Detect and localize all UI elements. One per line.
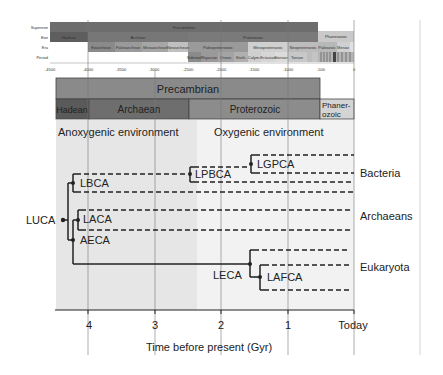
x-axis-ticks	[88, 310, 354, 314]
svg-text:-500: -500	[317, 67, 326, 72]
era-label: Neoarchean	[167, 45, 189, 50]
era-label: Paleoarchean	[116, 45, 141, 50]
lgpca-node-icon	[249, 162, 253, 166]
period-label: Stenian	[274, 55, 288, 60]
archaean-label: Archaean	[118, 104, 161, 115]
aeca-node-icon	[71, 238, 75, 242]
svg-text:-1500: -1500	[249, 67, 260, 72]
lgpca-label: LGPCA	[257, 158, 295, 170]
eon-hadean-label: Hadean	[62, 35, 76, 40]
svg-text:-2000: -2000	[216, 67, 227, 72]
period-label: Orosir.	[220, 55, 232, 60]
proterozoic-label: Proterozoic	[230, 104, 281, 115]
anoxygenic-label: Anoxygenic environment	[58, 126, 178, 138]
svg-text:0: 0	[353, 67, 356, 72]
era-label: Neoproterozoic	[289, 45, 316, 50]
svg-text:-3500: -3500	[116, 67, 127, 72]
era-label: Mesoarchean	[143, 45, 167, 50]
lafca-node-icon	[258, 275, 262, 279]
oxygenic-label: Oxygenic environment	[214, 126, 323, 138]
svg-text:-3000: -3000	[149, 67, 160, 72]
svg-text:4: 4	[86, 319, 92, 331]
row-label-period: Period	[36, 55, 48, 60]
supereon-precambrian-label: Precambrian	[173, 25, 196, 30]
x-axis-tick-labels: 4 3 2 1 Today	[86, 319, 368, 331]
era-label: Mesoz	[337, 45, 349, 50]
svg-text:Today: Today	[338, 319, 368, 331]
archaeans-label: Archaeans	[360, 210, 413, 222]
mini-timeline: Supereon Eon Era Period Precambrian Hade…	[31, 22, 356, 72]
era-label: Paleoproterozoic	[203, 45, 233, 50]
svg-text:-4500: -4500	[45, 67, 56, 72]
period-label: Rhyacian	[201, 55, 218, 60]
laca-node-icon	[76, 218, 80, 222]
precambrian-label: Precambrian	[157, 83, 219, 95]
period-label: Stath.	[236, 55, 246, 60]
lpbca-label: LPBCA	[195, 168, 232, 180]
era-label: Paleozoic	[318, 45, 335, 50]
hadean-label: Hadean	[56, 105, 88, 115]
era-label: Mesoproterozoic	[253, 45, 283, 50]
period-phanerozoic-stripes	[318, 52, 354, 62]
leca-node-icon	[248, 262, 252, 266]
eukaryota-label: Eukaryota	[360, 261, 410, 273]
svg-text:-2500: -2500	[183, 67, 194, 72]
lbca-label: LBCA	[80, 177, 109, 189]
lpbca-node-icon	[188, 172, 192, 176]
period-label: Siderian	[187, 55, 202, 60]
period-ediacaran	[312, 52, 318, 62]
era-cenozoic	[350, 42, 354, 52]
svg-text:-1000: -1000	[283, 67, 294, 72]
aeca-label: AECA	[80, 234, 111, 246]
lafca-label: LAFCA	[267, 271, 303, 283]
luca-label: LUCA	[26, 214, 56, 226]
svg-text:-4000: -4000	[83, 67, 94, 72]
lbca-node-icon	[71, 181, 75, 185]
phanerozoic-label-1: Phaner-	[322, 101, 351, 110]
eon-bars: Precambrian Hadean Archaean Proterozoic …	[56, 78, 354, 119]
era-label: Eoarchean	[91, 45, 110, 50]
svg-text:3: 3	[152, 319, 158, 331]
mini-axis-ticks: -4500 -4000 -3500 -3000 -2500 -2000 -150…	[45, 67, 356, 72]
period-label: Tonian	[291, 55, 303, 60]
figure-canvas: Supereon Eon Era Period Precambrian Hade…	[0, 0, 443, 375]
laca-label: LACA	[83, 213, 112, 225]
anoxygenic-region	[56, 120, 197, 310]
eon-archean-label: Archean	[131, 35, 146, 40]
period-label: Calym.	[248, 55, 260, 60]
eon-proterozoic-label: Proterozoic	[243, 35, 263, 40]
luca-node-icon	[61, 218, 65, 222]
row-label-eon: Eon	[41, 35, 48, 40]
bacteria-label: Bacteria	[360, 167, 401, 179]
row-label-supereon: Supereon	[31, 25, 48, 30]
leca-label: LECA	[213, 269, 242, 281]
x-axis-title: Time before present (Gyr)	[146, 341, 272, 353]
period-cryogenian	[307, 52, 312, 62]
svg-text:1: 1	[285, 319, 291, 331]
svg-text:2: 2	[218, 319, 224, 331]
row-label-era: Era	[42, 45, 49, 50]
eon-phanerozoic-label: Phanerozoic	[325, 34, 347, 39]
phanerozoic-label-2: ozoic	[322, 110, 341, 119]
